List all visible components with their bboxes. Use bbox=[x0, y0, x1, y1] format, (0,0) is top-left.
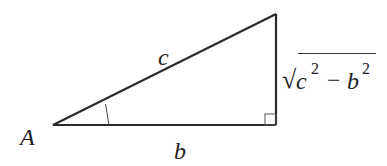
radical-sign: √ bbox=[282, 65, 297, 94]
minus-operator: − bbox=[327, 67, 341, 93]
term2-exponent: 2 bbox=[362, 60, 370, 77]
right-angle-marker bbox=[265, 114, 276, 125]
hypotenuse-label: c bbox=[158, 44, 169, 70]
opposite-label-sqrt-expression: √ c 2 − b 2 bbox=[282, 54, 376, 95]
vertex-a-label: A bbox=[18, 124, 35, 150]
term1-exponent: 2 bbox=[311, 60, 319, 77]
term1-base: c bbox=[296, 68, 307, 94]
term2-base: b bbox=[347, 68, 359, 94]
angle-a-marker bbox=[106, 104, 110, 125]
right-triangle-diagram: A c b √ c 2 − b 2 bbox=[0, 0, 387, 166]
adjacent-label: b bbox=[174, 138, 186, 164]
